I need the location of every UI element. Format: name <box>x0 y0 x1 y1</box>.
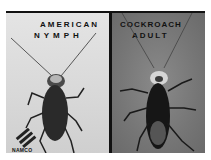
adult-panel: COCKROACH ADULT <box>112 13 205 153</box>
nymph-panel: AMERICAN NYMPH NAMCO <box>6 13 109 153</box>
logo-text: NAMCO <box>12 147 32 153</box>
cockroach-photo: AMERICAN NYMPH NAMCO <box>6 11 205 153</box>
adult-illustration <box>112 13 205 153</box>
